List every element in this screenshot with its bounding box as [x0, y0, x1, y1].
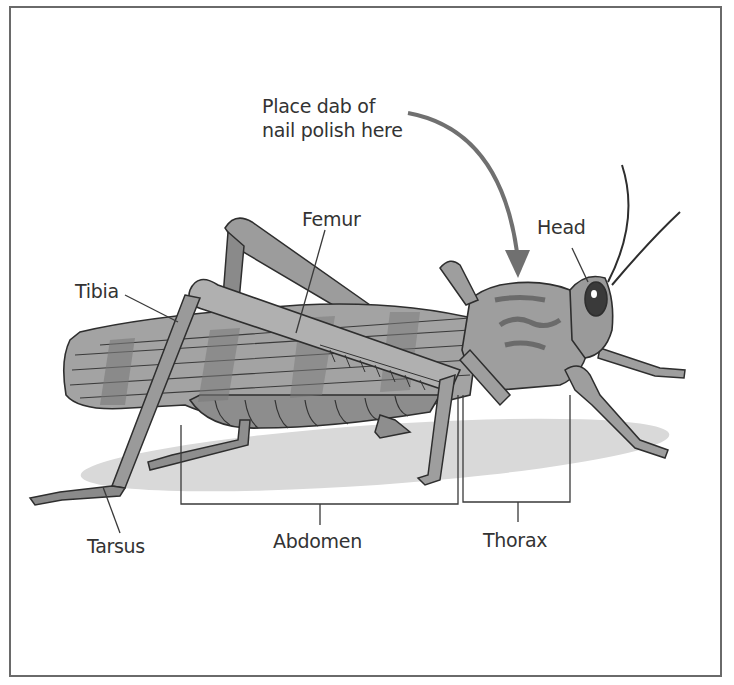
callout-text: Place dab of nail polish here [262, 94, 403, 142]
eye [585, 282, 607, 316]
callout-line-1: Place dab of [262, 94, 403, 118]
head-leader [572, 248, 588, 282]
callout-line-2: nail polish here [262, 118, 403, 142]
head [570, 165, 680, 358]
label-tarsus: Tarsus [87, 535, 145, 557]
callout-arrow [408, 113, 530, 278]
label-head: Head [537, 216, 585, 238]
tibia-leader [125, 295, 178, 322]
label-tibia: Tibia [75, 280, 119, 302]
label-thorax: Thorax [483, 529, 547, 551]
label-abdomen: Abdomen [273, 530, 362, 552]
label-femur: Femur [302, 208, 360, 230]
